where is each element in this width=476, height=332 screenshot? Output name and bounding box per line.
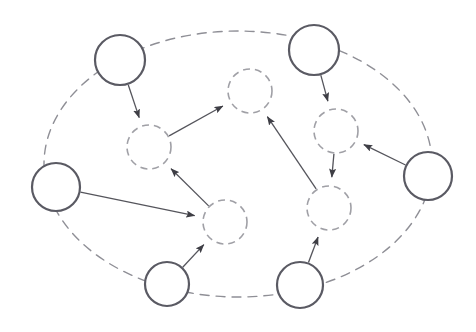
edge-s6-to-d5[interactable] <box>308 237 318 263</box>
edge-d3-to-d1[interactable] <box>171 169 209 206</box>
edge-s1-to-d1[interactable] <box>128 85 139 118</box>
node-d2-latent[interactable] <box>228 69 272 113</box>
diagram-canvas <box>0 0 476 332</box>
edge-d4-to-d5[interactable] <box>332 154 334 177</box>
node-d1-latent[interactable] <box>127 125 171 169</box>
graph-diagram <box>0 0 476 332</box>
edge-s4-to-d4[interactable] <box>364 145 406 165</box>
nodes-layer <box>32 25 452 308</box>
node-s4-observed[interactable] <box>404 152 452 200</box>
edge-s3-to-d3[interactable] <box>80 192 194 216</box>
node-d5-latent[interactable] <box>307 186 351 230</box>
node-s2-observed[interactable] <box>289 25 339 75</box>
node-s6-observed[interactable] <box>277 262 323 308</box>
node-d3-latent[interactable] <box>203 200 247 244</box>
node-d4-latent[interactable] <box>314 109 358 153</box>
node-s5-observed[interactable] <box>145 262 189 306</box>
edge-s2-to-d4[interactable] <box>321 75 328 101</box>
node-s3-observed[interactable] <box>32 163 80 211</box>
edge-d1-to-d2[interactable] <box>169 106 223 136</box>
node-s1-observed[interactable] <box>95 35 145 85</box>
edge-s5-to-d3[interactable] <box>183 245 204 268</box>
edge-d5-to-d2[interactable] <box>267 117 316 189</box>
